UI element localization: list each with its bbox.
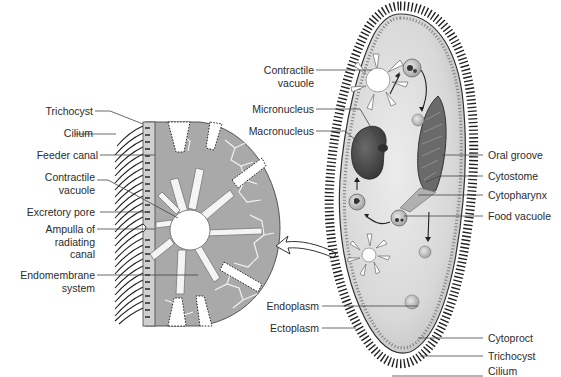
label-line: vacuole [45,184,95,197]
label-excretory-pore: Excretory pore [27,206,95,218]
label-line: Ampulla of [45,223,95,236]
enlarged-contractile-vacuole [170,210,210,250]
label-line: Endomembrane [20,269,95,282]
enlarged-cilia [115,126,143,324]
enlarged-contractile-vacuole-view [115,122,280,326]
label-line: vacuole [264,77,314,90]
label-cell-contractile-vacuole: Contractile vacuole [264,64,314,89]
label-endomembrane-system: Endomembrane system [20,269,95,294]
label-oral-groove: Oral groove [488,149,543,161]
label-cell-cilium: Cilium [488,365,517,377]
paramecium-cell [329,6,474,364]
label-ampulla: Ampulla of radiating canal [45,223,95,261]
label-feeder-canal: Feeder canal [37,149,98,161]
label-cytopharynx: Cytopharynx [488,189,547,201]
micronucleus [378,144,388,152]
label-enlarged-trichocyst: Trichocyst [46,105,93,117]
label-micronucleus: Micronucleus [252,103,314,115]
label-macronucleus: Macronucleus [249,125,314,137]
label-cell-trichocyst: Trichocyst [488,350,535,362]
macronucleus [352,126,387,179]
label-endoplasm: Endoplasm [266,300,319,312]
label-line: radiating [45,236,95,249]
label-enlarged-contractile-vacuole: Contractile vacuole [45,171,95,196]
label-line: system [20,282,95,295]
label-line: Contractile [45,171,95,184]
label-enlarged-cilium: Cilium [64,127,93,139]
label-ectoplasm: Ectoplasm [270,322,319,334]
label-line: Contractile [264,64,314,77]
label-line: canal [45,248,95,261]
label-cytoproct: Cytoproct [488,332,533,344]
label-food-vacuole: Food vacuole [488,210,551,222]
label-cytostome: Cytostome [488,170,538,182]
